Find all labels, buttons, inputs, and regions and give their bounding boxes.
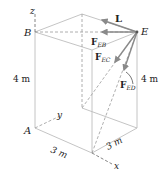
point-E-dot xyxy=(136,31,139,34)
dim-height-right: 4 m xyxy=(141,74,159,84)
dim-height-left: 4 m xyxy=(13,74,31,84)
label-y: y xyxy=(56,110,63,120)
x-axis xyxy=(92,153,112,164)
label-x: x xyxy=(114,161,119,171)
dim-width-front: 3 m xyxy=(49,145,69,161)
label-FED: FED xyxy=(120,80,136,91)
moment-curve xyxy=(126,72,133,84)
label-FEC: FEC xyxy=(95,52,111,63)
label-L: L xyxy=(115,13,122,24)
label-B: B xyxy=(23,27,31,38)
box-force-diagram: z B E A y x 4 m 4 m 3 m 3 m L FEB FEC FE… xyxy=(0,0,161,178)
label-A: A xyxy=(23,125,31,136)
label-z: z xyxy=(29,6,35,16)
label-FEB: FEB xyxy=(91,37,107,48)
arrow-FED xyxy=(124,32,137,70)
dim-width-right: 3 m xyxy=(104,135,124,152)
label-E: E xyxy=(140,26,149,37)
